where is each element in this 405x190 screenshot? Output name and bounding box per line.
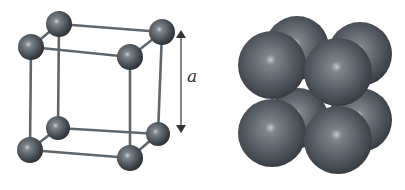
atom-bbl xyxy=(46,116,70,140)
atom-fbl xyxy=(17,137,43,163)
atom-btl xyxy=(46,11,72,37)
bond-fbl-fbr xyxy=(30,150,130,158)
lattice-constant-label: a xyxy=(187,66,197,86)
space-filling-model xyxy=(238,16,392,174)
ball-and-stick-model xyxy=(17,11,175,171)
bond-btl-btr xyxy=(59,24,162,32)
bond-ftl-ftr xyxy=(31,47,130,57)
atom-btr xyxy=(149,19,175,45)
sphere-fbr xyxy=(304,106,372,174)
simple-cubic-figure: a xyxy=(0,0,405,190)
sphere-ftl xyxy=(238,31,306,99)
atom-ftr xyxy=(117,44,143,70)
bond-btl-bbl xyxy=(58,24,59,128)
atom-fbr xyxy=(117,145,143,171)
bond-ftl-fbl xyxy=(30,47,31,150)
atom-bbr xyxy=(146,122,170,146)
atom-ftl xyxy=(18,34,44,60)
sphere-ftr xyxy=(304,38,372,106)
bond-btr-bbr xyxy=(158,32,162,134)
sphere-fbl xyxy=(238,99,306,167)
bond-bbl-bbr xyxy=(58,128,158,134)
lattice-dimension-arrow: a xyxy=(181,34,197,129)
